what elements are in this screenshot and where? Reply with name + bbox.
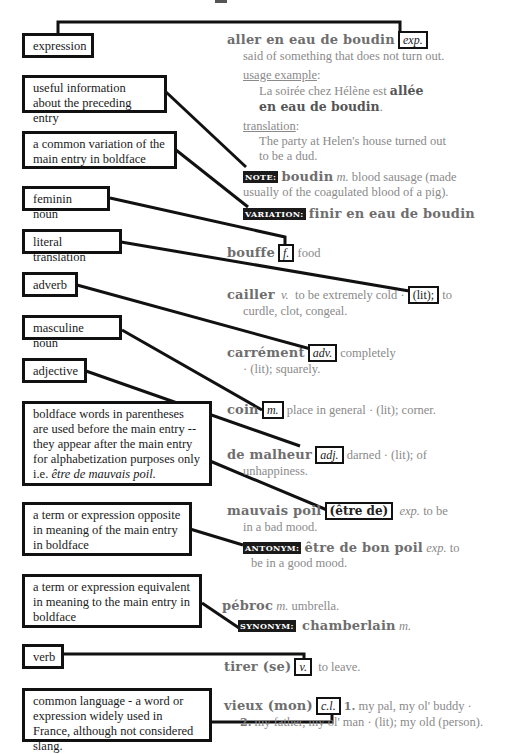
headword: de malheur <box>227 447 312 462</box>
sense-number: 1. <box>344 700 355 713</box>
definition: darned · (lit); of <box>347 448 427 462</box>
callout-text: literal translation <box>33 235 86 264</box>
synonym-pos: m. <box>399 619 411 633</box>
note-text: usually of the coagulated blood of a pig… <box>227 185 502 200</box>
sense-definition: my father, my ol' man · (lit); my old (p… <box>251 715 483 729</box>
callout-common-language: common language - a word or expression w… <box>22 688 212 742</box>
entry-aller-en-eau-de-boudin: aller en eau de boudin exp. said of some… <box>227 31 502 222</box>
definition: umbrella. <box>288 599 339 613</box>
definition-rest: curdle, clot, congeal. <box>227 304 502 319</box>
tag-expression: exp. <box>398 31 428 49</box>
usage-text: La soirée chez Hélène est <box>259 84 390 98</box>
callout-variation: a common variation of the main entry in … <box>22 131 177 169</box>
entry-vieux-mon: vieux (mon) c.l. 1. my pal, my ol' buddy… <box>224 697 504 730</box>
callout-line: for alphabetization purposes only <box>33 452 201 467</box>
callout-masculine-noun: masculine noun <box>22 315 122 340</box>
usage-bold: en eau de boudin <box>259 99 380 114</box>
tag-literal: (lit); <box>408 286 439 304</box>
callout-line: are used before the main entry -- <box>33 422 201 437</box>
headword: tirer (se) <box>224 659 291 674</box>
callout-antonym: a term or expression opposite in meaning… <box>22 502 192 556</box>
callout-verb: verb <box>22 644 64 669</box>
note-label: NOTE: <box>243 171 278 183</box>
antonym-label: ANTONYM: <box>243 542 301 554</box>
headword: aller en eau de boudin <box>227 32 395 47</box>
headword: bouffe <box>227 245 275 260</box>
definition: said of something that does not turn out… <box>227 49 502 64</box>
note-word: boudin <box>281 169 333 184</box>
callout-line: boldface words in parentheses <box>33 407 201 422</box>
callout-parentheses: boldface words in parentheses are used b… <box>22 401 212 486</box>
variation-label: VARIATION: <box>243 208 306 220</box>
callout-line: i.e. être de mauvais poil. <box>33 467 201 482</box>
punctuation: . <box>380 100 383 114</box>
definition-rest: in a bad mood. <box>227 520 502 535</box>
note-text: blood sausage (made <box>349 170 457 184</box>
callout-text: verb <box>33 650 55 664</box>
synonym-word: chamberlain <box>302 618 396 633</box>
part-of-speech: m. <box>276 599 288 613</box>
entry-pebroc: pébroc m. umbrella. SYNONYM: chamberlain… <box>222 598 411 634</box>
entry-tirer-se: tirer (se) v. to leave. <box>224 658 361 676</box>
entry-carrement: carrément adv. completely · (lit); squar… <box>227 344 396 377</box>
headword: cailler <box>227 287 275 302</box>
callout-useful-info: useful information about the preceding e… <box>22 75 167 113</box>
callout-text: a term or expression opposite in meaning… <box>33 508 180 552</box>
callout-text: adverb <box>33 278 67 292</box>
callout-text: adjective <box>33 364 78 378</box>
tag-feminine: f. <box>278 244 294 262</box>
tag-common-language: c.l. <box>316 697 341 715</box>
callout-adjective: adjective <box>22 358 87 383</box>
antonym-word: être de bon poil <box>305 540 423 555</box>
headword: vieux (mon) <box>224 698 313 713</box>
entry-cailler: cailler v. to be extremely cold · (lit);… <box>227 286 502 319</box>
tag-adjective: adj. <box>315 446 343 464</box>
callout-feminine-noun: feminin noun <box>22 186 110 211</box>
tag-parentheses: (être de) <box>325 502 394 520</box>
headword: pébroc <box>222 598 273 613</box>
definition: to leave. <box>318 660 360 674</box>
callout-text: a term or expression equivalent in meani… <box>33 580 190 624</box>
definition: to be <box>420 504 448 518</box>
callout-synonym: a term or expression equivalent in meani… <box>22 574 202 628</box>
definition: to be extremely cold · <box>295 288 405 302</box>
translation-text: to be a dud. <box>227 149 502 164</box>
tag-verb: v. <box>294 658 311 676</box>
tag-adverb: adv. <box>308 344 337 362</box>
definition: place in general · (lit); corner. <box>287 403 436 417</box>
sense-definition: my pal, my ol' buddy · <box>355 699 471 713</box>
definition: completely <box>340 346 396 360</box>
headword: carrément <box>227 345 305 360</box>
callout-expression: expression <box>22 33 94 58</box>
part-of-speech: v. <box>281 288 289 302</box>
part-of-speech: exp. <box>400 504 420 518</box>
entry-bouffe: bouffe f. food <box>227 244 320 262</box>
callout-text: expression <box>33 39 86 53</box>
translation-text: The party at Helen's house turned out <box>227 134 502 149</box>
headword: coin <box>227 402 259 417</box>
entry-coin: coin m. place in general · (lit); corner… <box>227 401 436 419</box>
tag-masculine: m. <box>262 401 284 419</box>
entry-de-malheur: de malheur adj. darned · (lit); of unhap… <box>227 446 427 479</box>
antonym-pos: exp. <box>426 541 446 555</box>
definition: food <box>297 246 320 260</box>
callout-text: a common variation of the main entry in … <box>33 137 165 166</box>
sense-number: 2. <box>240 716 251 729</box>
translation-label: translation <box>243 119 296 133</box>
callout-line: they appear after the main entry <box>33 437 201 452</box>
definition-rest: · (lit); squarely. <box>227 362 396 377</box>
callout-adverb: adverb <box>22 272 78 297</box>
usage-bold: allée <box>390 83 424 98</box>
callout-example: être de mauvais poil. <box>51 467 155 481</box>
synonym-label: SYNONYM: <box>238 620 296 632</box>
definition-rest: to <box>442 288 452 302</box>
note-gender: m. <box>336 170 348 184</box>
variation-text: finir en eau de boudin <box>309 206 475 221</box>
callout-text: i.e. <box>33 467 51 481</box>
usage-label: usage example <box>243 68 317 82</box>
headword: mauvais poil <box>227 503 321 518</box>
antonym-definition: to <box>447 541 460 555</box>
callout-literal-translation: literal translation <box>22 229 122 254</box>
definition-rest: unhappiness. <box>227 464 427 479</box>
entry-mauvais-poil: mauvais poil (être de) exp. to be in a b… <box>227 502 502 571</box>
